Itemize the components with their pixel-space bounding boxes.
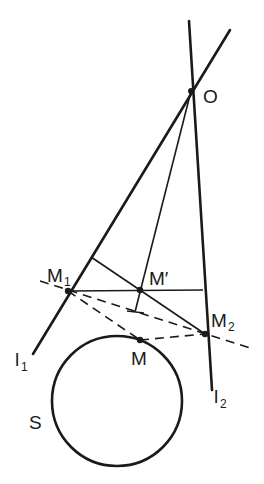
- label-M2-sub: 2: [228, 320, 235, 334]
- line-perp-to-M2: [91, 257, 205, 334]
- geometry-diagram: O M 1 M′ M 2 M l 1 l 2 S: [0, 0, 264, 484]
- label-O: O: [203, 86, 218, 107]
- label-l1-sub: 1: [21, 360, 28, 374]
- label-M: M: [131, 348, 147, 369]
- dashed-line-M1-M: [68, 291, 140, 340]
- label-l2: l: [214, 386, 218, 407]
- label-l2-sub: 2: [220, 397, 227, 411]
- point-M: [137, 337, 143, 343]
- point-Mprime: [137, 287, 143, 293]
- point-M2: [202, 331, 208, 337]
- label-l1: l: [15, 349, 19, 370]
- label-Mprime: M′: [149, 268, 169, 289]
- label-M1: M: [47, 265, 63, 286]
- label-M1-sub: 1: [64, 275, 71, 289]
- circle-S: [52, 336, 182, 466]
- point-O: [188, 88, 194, 94]
- label-M2: M: [211, 310, 227, 331]
- line-M1-horizontal: [68, 290, 203, 291]
- label-S: S: [29, 412, 42, 433]
- dashed-line-M-M2: [140, 334, 205, 340]
